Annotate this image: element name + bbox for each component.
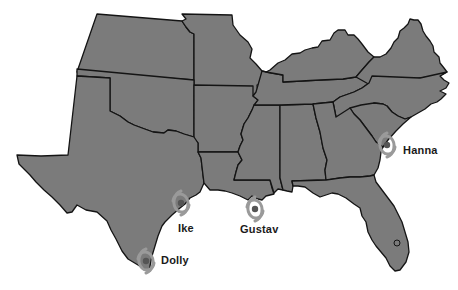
hurricane-icon-ike xyxy=(168,188,194,218)
hurricane-label-gustav: Gustav xyxy=(240,223,279,235)
state-florida xyxy=(292,175,409,271)
hurricane-icon-gustav xyxy=(242,194,268,224)
hurricane-label-ike: Ike xyxy=(178,222,194,234)
hurricane-icon-hanna xyxy=(374,130,400,160)
hurricane-icon-dolly xyxy=(133,246,159,276)
hurricane-label-dolly: Dolly xyxy=(161,254,189,266)
hurricane-label-hanna: Hanna xyxy=(403,144,438,156)
